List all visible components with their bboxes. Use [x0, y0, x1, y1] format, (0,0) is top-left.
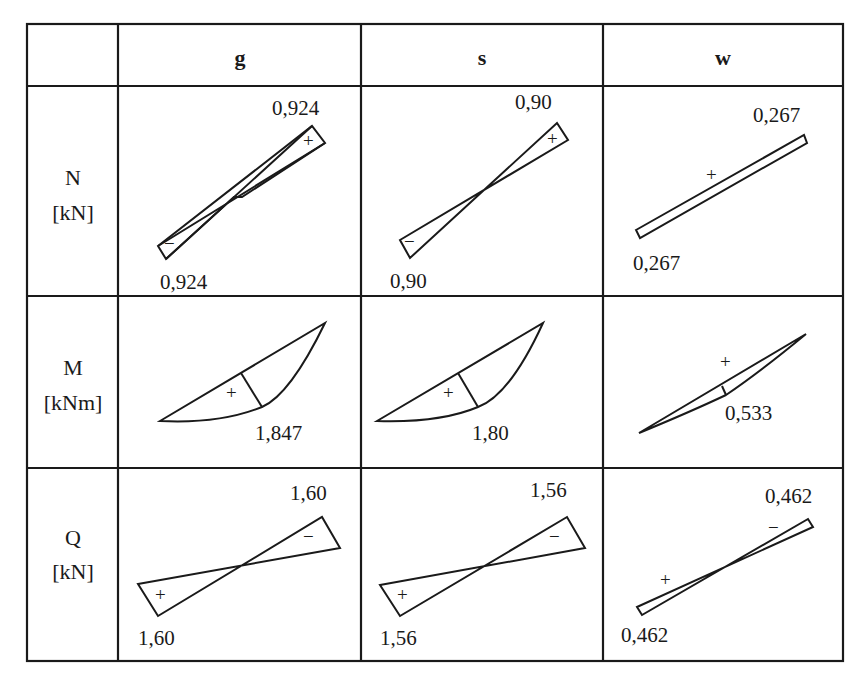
q-w-top-value: 0,462: [765, 484, 812, 508]
m-g-plus-sign: +: [226, 382, 237, 403]
column-header-s: s: [478, 45, 487, 70]
n-w-bottom-value: 0,267: [633, 251, 680, 275]
bending-moment-diagram-s: 1,80 +: [377, 323, 543, 445]
m-w-plus-sign: +: [720, 351, 731, 372]
n-g-top-value: 0,924: [272, 96, 320, 120]
row-label-q: Q: [65, 525, 81, 550]
q-w-plus-sign: +: [660, 569, 671, 590]
row-unit-n: [kN]: [52, 200, 94, 225]
n-s-bottom-value: 0,90: [390, 269, 427, 293]
bending-moment-diagram-g: 1,847 +: [160, 323, 325, 445]
q-w-bottom-value: 0,462: [621, 623, 668, 647]
row-label-n: N: [65, 165, 81, 190]
n-s-top-value: 0,90: [515, 90, 552, 114]
row-label-m: M: [63, 355, 83, 380]
n-w-plus-sign: +: [706, 164, 717, 185]
row-unit-m: [kNm]: [44, 390, 103, 415]
table-grid: [27, 24, 843, 661]
normal-force-diagram-g: 0,924 0,924 + −: [158, 96, 325, 294]
q-g-minus-sign: −: [303, 526, 314, 547]
n-g-bottom-value: 0,924: [160, 270, 208, 294]
q-g-bottom-value: 1,60: [138, 626, 175, 650]
shear-force-diagram-g: 1,60 1,60 − +: [138, 481, 340, 650]
n-s-plus-sign: +: [547, 128, 558, 149]
q-s-bottom-value: 1,56: [380, 626, 417, 650]
q-g-top-value: 1,60: [290, 481, 327, 505]
bending-moment-diagram-w: 0,533 +: [639, 334, 806, 433]
q-s-plus-sign: +: [397, 584, 408, 605]
q-w-minus-sign: −: [768, 517, 779, 538]
m-w-value: 0,533: [725, 401, 772, 425]
internal-forces-table: g s w N [kN] M [kNm] Q [kN] 0,924 0,924 …: [0, 0, 861, 678]
m-s-value: 1,80: [472, 421, 509, 445]
normal-force-diagram-w: 0,267 0,267 +: [633, 103, 807, 275]
n-s-minus-sign: −: [404, 231, 415, 252]
q-s-top-value: 1,56: [530, 478, 567, 502]
shear-force-diagram-s: 1,56 1,56 − +: [380, 478, 585, 650]
m-g-value: 1,847: [255, 421, 302, 445]
shear-force-diagram-w: 0,462 0,462 − +: [621, 484, 813, 647]
row-unit-q: [kN]: [52, 559, 94, 584]
column-header-g: g: [235, 45, 246, 70]
n-g-minus-sign: −: [164, 233, 175, 254]
n-g-plus-sign: +: [303, 130, 314, 151]
q-s-minus-sign: −: [549, 526, 560, 547]
normal-force-diagram-s: 0,90 0,90 + −: [390, 90, 568, 293]
n-w-top-value: 0,267: [753, 103, 800, 127]
q-g-plus-sign: +: [155, 584, 166, 605]
m-s-plus-sign: +: [443, 382, 454, 403]
column-header-w: w: [715, 45, 731, 70]
